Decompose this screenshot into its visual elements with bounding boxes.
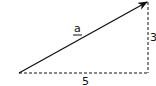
vertical-component-label: 3 [150, 31, 156, 44]
vector-diagram: a 3 5 [0, 0, 156, 86]
vector-label: a [74, 22, 81, 35]
vector-arrow [19, 2, 147, 73]
horizontal-component-label: 5 [82, 75, 89, 86]
